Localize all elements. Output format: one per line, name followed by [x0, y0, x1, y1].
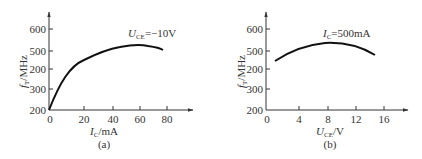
- x-tick-label: 20: [79, 113, 91, 125]
- x-tick-label: 80: [162, 113, 174, 125]
- caption-b: (b): [324, 138, 337, 151]
- x-tick-label: 60: [135, 113, 147, 125]
- x-tick-label: 0: [47, 113, 53, 125]
- chart-a: 600 500 200 300 200 0 20 40 60 80 UCE=−1…: [17, 12, 193, 151]
- x-tick-label: 16: [379, 113, 391, 125]
- y-tick-label: 300: [247, 83, 264, 95]
- y-axis-label-b: fT/MHz: [235, 55, 249, 88]
- x-tick-label: 40: [108, 113, 120, 125]
- caption-a: (a): [98, 138, 111, 151]
- figure: 600 500 200 300 200 0 20 40 60 80 UCE=−1…: [0, 0, 422, 159]
- x-axis-label-a: IC/mA: [89, 125, 118, 139]
- y-axis-label-a: fT/MHz: [17, 55, 31, 88]
- y-tick-label: 200: [30, 104, 47, 116]
- x-tick-label: 12: [351, 113, 362, 125]
- y-tick-label: 200: [247, 104, 264, 116]
- y-tick-label: 500: [30, 45, 47, 57]
- x-tick-label: 4: [296, 113, 302, 125]
- y-tick-label: 200: [247, 63, 264, 75]
- y-tick-label: 500: [247, 45, 264, 57]
- x-ticks-a: [84, 106, 167, 110]
- x-tick-label: 8: [325, 113, 331, 125]
- y-tick-label: 600: [247, 23, 264, 35]
- x-ticks-b: [299, 106, 384, 110]
- x-tick-label: 0: [264, 113, 270, 125]
- curve-a: [49, 45, 163, 110]
- y-ticks-b: [266, 29, 270, 89]
- chart-b: 600 500 200 300 200 0 4 8 12 16 IC=500mA…: [235, 12, 408, 151]
- y-tick-label: 300: [30, 83, 47, 95]
- y-tick-label: 600: [30, 23, 47, 35]
- annotation-b: IC=500mA: [322, 27, 371, 41]
- annotation-a: UCE=−10V: [128, 27, 176, 41]
- y-tick-label: 200: [30, 63, 47, 75]
- x-axis-label-b: UCE/V: [316, 125, 344, 139]
- y-ticks-a: [49, 29, 53, 89]
- curve-b: [275, 43, 375, 61]
